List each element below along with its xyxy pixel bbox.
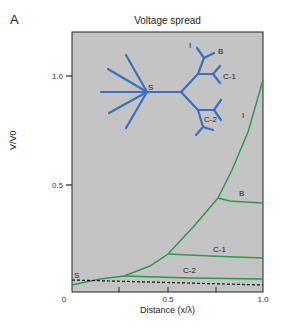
- inset-label-c1: C-1: [223, 72, 236, 81]
- y-tick-05: 0.5: [52, 181, 64, 190]
- plot-area: [72, 32, 263, 292]
- label-c1: C-1: [213, 245, 226, 254]
- x-axis-label: Distance (x/λ): [72, 305, 263, 315]
- inset-label-c2: C-2: [204, 115, 217, 124]
- label-i: I: [242, 111, 244, 120]
- chart-svg: 1.0 0.5 0 0.5 1.0 S C-2 C-1 B I: [0, 0, 283, 332]
- inset-label-b: B: [218, 47, 223, 56]
- label-c2: C-2: [183, 266, 196, 275]
- x-tick-1: 1.0: [257, 295, 269, 304]
- x-tick-05: 0.5: [162, 295, 174, 304]
- inset-label-i: I: [189, 41, 191, 50]
- inset-label-s: S: [148, 83, 153, 92]
- label-s: S: [74, 271, 79, 280]
- x-tick-0: 0: [62, 295, 67, 304]
- y-axis-label: V/V0: [8, 130, 18, 150]
- label-b: B: [239, 189, 244, 198]
- y-tick-1: 1.0: [52, 72, 64, 81]
